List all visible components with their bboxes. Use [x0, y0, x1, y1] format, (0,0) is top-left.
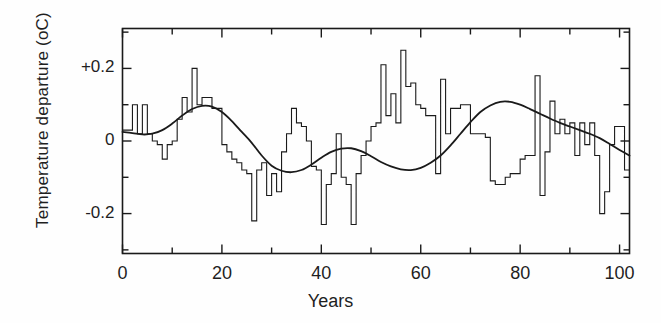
smoothed-trend-series — [123, 101, 630, 172]
plot-area — [0, 0, 661, 323]
axis-ticks — [123, 29, 630, 254]
figure: Temperature departure (oC) Years +0.2 0 … — [0, 0, 661, 323]
annual-departure-step-series — [123, 50, 630, 224]
axes-frame — [123, 29, 630, 254]
